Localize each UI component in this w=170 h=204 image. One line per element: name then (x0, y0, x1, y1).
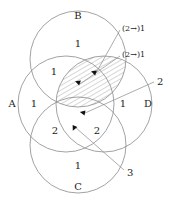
region-count-b-only: 1 (75, 38, 81, 49)
set-label-d: D (144, 98, 152, 109)
arrow-head-3 (79, 110, 85, 116)
set-label-b: B (74, 10, 81, 21)
annotation-label-three: 3 (127, 167, 133, 178)
region-count-a-only: 1 (31, 98, 37, 109)
region-count-c-only: 1 (75, 160, 81, 171)
hatched-lens-region (56, 56, 152, 152)
set-label-c: C (74, 181, 82, 192)
annotation-label-second: (2→)1 (122, 50, 145, 59)
venn-diagram-canvas: B A D C 1 1 1 1 2 2 1 (2→)1 (2→)1 2 3 (0, 0, 170, 204)
venn-diagram-figure: B A D C 1 1 1 1 2 2 1 (2→)1 (2→)1 2 3 (0, 0, 170, 204)
region-count-c-and-d: 2 (94, 125, 100, 136)
annotation-label-top: (2→)1 (122, 24, 145, 33)
region-count-a-and-c: 2 (52, 125, 58, 136)
annotation-label-two: 2 (157, 76, 163, 87)
set-label-a: A (7, 98, 16, 109)
region-count-a-and-b: 1 (51, 66, 57, 77)
circle-c (30, 97, 126, 193)
region-count-d-only: 1 (120, 98, 126, 109)
